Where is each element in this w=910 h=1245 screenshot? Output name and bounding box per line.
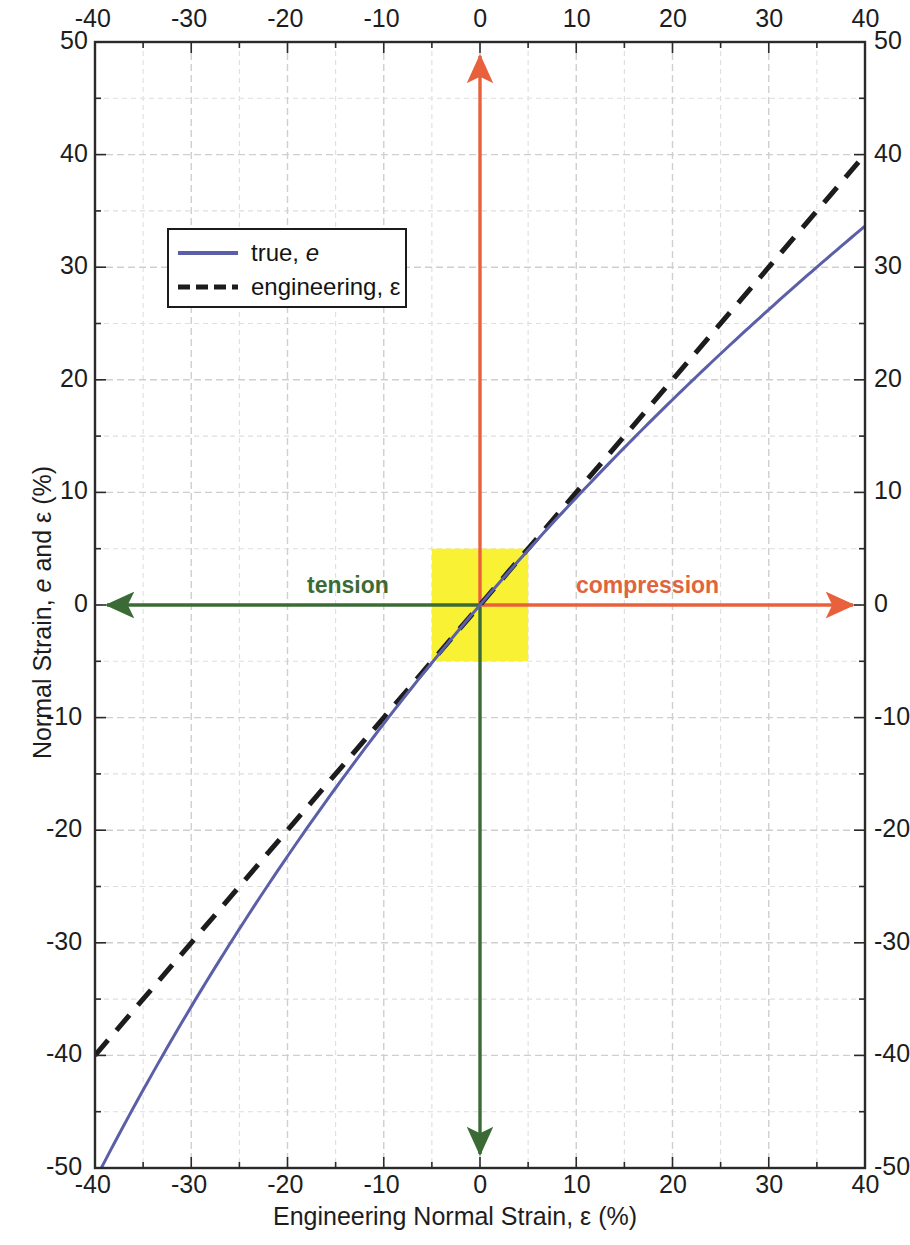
x-tick-label-bottom: -30 [171, 1172, 207, 1197]
x-axis-title: Engineering Normal Strain, ε (%) [0, 1202, 910, 1231]
x-tick-label-top: 0 [473, 6, 487, 31]
legend-label-true: true, e [251, 239, 319, 267]
y-tick-label-left: -30 [46, 929, 82, 954]
y-tick-label-left: 10 [60, 478, 88, 503]
x-tick-label-bottom: -10 [364, 1172, 400, 1197]
legend-label-engineering: engineering, ε [251, 273, 400, 301]
legend-swatch-solid-icon [177, 246, 239, 260]
x-tick-label-bottom: 30 [755, 1172, 783, 1197]
y-tick-label-right: -50 [874, 1154, 910, 1179]
x-tick-label-bottom: -20 [267, 1172, 303, 1197]
y-tick-label-right: 10 [874, 478, 902, 503]
y-tick-label-right: 30 [874, 253, 902, 278]
y-tick-label-left: 30 [60, 253, 88, 278]
legend-swatch-dashed-icon [177, 280, 239, 294]
y-tick-label-right: 40 [874, 141, 902, 166]
y-tick-label-right: -20 [874, 816, 910, 841]
chart-legend: true, e engineering, ε [167, 228, 407, 308]
y-tick-label-left: -50 [46, 1154, 82, 1179]
annotation-tension: tension [307, 572, 389, 599]
legend-item-true: true, e [177, 236, 319, 270]
x-tick-label-bottom: 20 [659, 1172, 687, 1197]
x-tick-label-bottom: 0 [473, 1172, 487, 1197]
y-tick-label-left: 50 [60, 28, 88, 53]
y-tick-label-right: -10 [874, 704, 910, 729]
y-tick-label-right: 50 [874, 28, 902, 53]
annotation-compression: compression [576, 572, 719, 599]
y-tick-label-right: 20 [874, 366, 902, 391]
x-tick-label-top: 10 [563, 6, 591, 31]
legend-symbol-epsilon: ε [390, 273, 401, 300]
y-tick-label-left: 20 [60, 366, 88, 391]
y-tick-label-right: -40 [874, 1041, 910, 1066]
y-axis-title: Normal Strain, e and ε (%) [28, 403, 57, 823]
x-tick-label-top: -30 [171, 6, 207, 31]
y-tick-label-left: 40 [60, 141, 88, 166]
y-tick-label-left: -40 [46, 1041, 82, 1066]
legend-item-engineering: engineering, ε [177, 270, 400, 304]
y-tick-label-right: 0 [874, 591, 888, 616]
x-tick-label-top: 30 [755, 6, 783, 31]
x-tick-label-bottom: 10 [563, 1172, 591, 1197]
strain-comparison-chart [0, 0, 910, 1245]
x-tick-label-top: -10 [364, 6, 400, 31]
x-tick-label-top: -20 [267, 6, 303, 31]
legend-symbol-e: e [306, 239, 319, 266]
x-tick-label-top: 20 [659, 6, 687, 31]
y-tick-label-right: -30 [874, 929, 910, 954]
y-tick-label-left: 0 [74, 591, 88, 616]
